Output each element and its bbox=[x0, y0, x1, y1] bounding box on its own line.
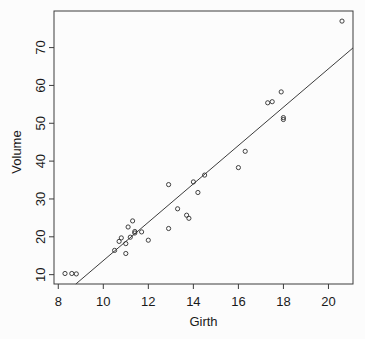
x-tick-label: 8 bbox=[55, 294, 62, 309]
data-point bbox=[243, 149, 247, 153]
scatter-plot: 8101214161820 10203040506070 Girth Volum… bbox=[0, 0, 365, 339]
data-point bbox=[279, 90, 283, 94]
data-point bbox=[119, 236, 123, 240]
data-points bbox=[63, 19, 344, 276]
regression-line bbox=[76, 48, 353, 284]
data-point bbox=[126, 225, 130, 229]
y-axis: 10203040506070 bbox=[33, 40, 54, 282]
data-point bbox=[131, 219, 135, 223]
data-point bbox=[167, 226, 171, 230]
fit-line bbox=[76, 48, 353, 284]
y-tick-label: 10 bbox=[33, 267, 48, 281]
data-point bbox=[176, 207, 180, 211]
data-point bbox=[266, 101, 270, 105]
data-point bbox=[340, 19, 344, 23]
y-tick-label: 50 bbox=[33, 116, 48, 130]
y-tick-label: 30 bbox=[33, 192, 48, 206]
y-tick-label: 20 bbox=[33, 230, 48, 244]
x-axis-title: Girth bbox=[189, 314, 217, 329]
x-tick-label: 10 bbox=[96, 294, 110, 309]
data-point bbox=[124, 242, 128, 246]
x-tick-label: 14 bbox=[186, 294, 200, 309]
y-tick-label: 40 bbox=[33, 154, 48, 168]
y-axis-title: Volume bbox=[9, 130, 24, 173]
data-point bbox=[167, 183, 171, 187]
plot-border bbox=[54, 11, 353, 284]
data-point bbox=[70, 271, 74, 275]
data-point bbox=[196, 190, 200, 194]
x-axis: 8101214161820 bbox=[55, 284, 336, 309]
data-point bbox=[63, 271, 67, 275]
data-point bbox=[74, 272, 78, 276]
x-tick-label: 20 bbox=[321, 294, 335, 309]
y-tick-label: 70 bbox=[33, 40, 48, 54]
data-point bbox=[270, 100, 274, 104]
data-point bbox=[187, 216, 191, 220]
data-point bbox=[124, 251, 128, 255]
x-tick-label: 12 bbox=[141, 294, 155, 309]
plot-box bbox=[54, 11, 353, 284]
r-plot-figure: 8101214161820 10203040506070 Girth Volum… bbox=[0, 0, 365, 339]
data-point bbox=[146, 238, 150, 242]
x-tick-label: 16 bbox=[231, 294, 245, 309]
y-tick-label: 60 bbox=[33, 78, 48, 92]
data-point bbox=[140, 230, 144, 234]
x-tick-label: 18 bbox=[276, 294, 290, 309]
data-point bbox=[236, 166, 240, 170]
